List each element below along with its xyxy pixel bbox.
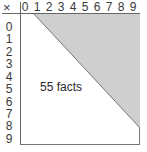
- row-label: 5: [3, 83, 15, 95]
- column-label: 1: [31, 1, 43, 13]
- column-label: 5: [79, 1, 91, 13]
- facts-count-label: 55 facts: [40, 81, 82, 94]
- column-label: 3: [55, 1, 67, 13]
- column-label: 0: [19, 1, 31, 13]
- column-label: 8: [115, 1, 127, 13]
- row-label: 9: [3, 133, 15, 145]
- column-label: 2: [43, 1, 55, 13]
- row-label: 3: [3, 58, 15, 70]
- column-label: 6: [91, 1, 103, 13]
- column-label: 4: [67, 1, 79, 13]
- row-label: 8: [3, 120, 15, 132]
- column-label: 7: [103, 1, 115, 13]
- row-label: 1: [3, 33, 15, 45]
- column-label: 9: [127, 1, 139, 13]
